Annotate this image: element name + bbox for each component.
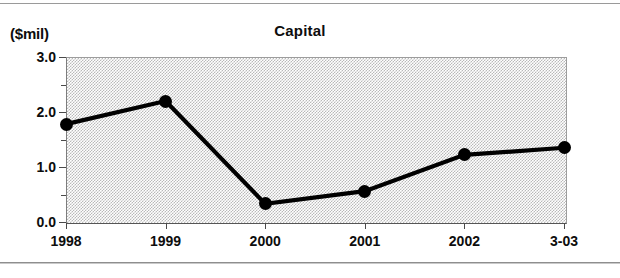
x-axis-tick — [166, 223, 167, 229]
x-axis-tick-label: 2002 — [424, 233, 504, 249]
x-axis-tick-label: 1998 — [26, 233, 106, 249]
x-axis-tick — [265, 223, 266, 229]
chart-screenshot: ($mil) Capital 0.01.02.03.0 199819992000… — [0, 0, 620, 278]
x-axis-tick-label: 2001 — [325, 233, 405, 249]
x-axis-tick-label: 1999 — [126, 233, 206, 249]
x-axis-tick — [365, 223, 366, 229]
x-axis-tick — [564, 223, 565, 229]
x-axis-tick-label: 2000 — [225, 233, 305, 249]
x-axis-tick — [464, 223, 465, 229]
x-axis-tick — [66, 223, 67, 229]
x-axis-tick-label: 3-03 — [524, 233, 604, 249]
bottom-divider-rule-shadow — [0, 263, 620, 264]
x-axis: 199819992000200120023-03 — [0, 0, 620, 278]
